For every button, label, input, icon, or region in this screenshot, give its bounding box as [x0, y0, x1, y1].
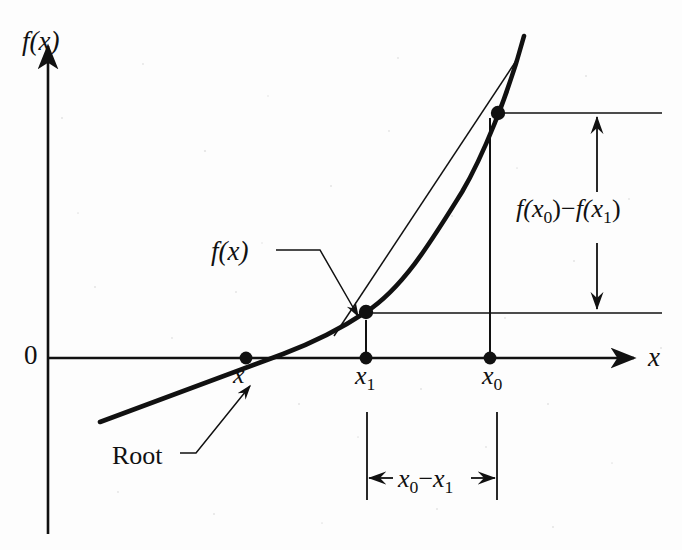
origin-label: 0	[24, 342, 38, 369]
f-open-2: f(	[576, 194, 592, 223]
x-axis-label: x	[648, 344, 660, 371]
x1-variable: x	[355, 361, 367, 390]
paren-close-1: )	[552, 194, 561, 223]
curve-point-x0-marker	[491, 106, 505, 120]
x0-subscript: 0	[494, 374, 503, 394]
function-curve	[100, 36, 524, 422]
y-axis-label: f(x)	[22, 28, 59, 55]
f-open-1: f(	[516, 194, 532, 223]
xdiff-x0: x	[398, 464, 410, 493]
root-point-variable: x	[233, 362, 245, 388]
secant-line	[334, 61, 516, 336]
paren-close-2: )	[612, 194, 621, 223]
x0-variable: x	[482, 361, 494, 390]
root-callout-leader	[180, 386, 250, 453]
minus-sign-1: −	[561, 194, 576, 223]
xdiff-sub-0: 0	[410, 477, 419, 497]
root-point-label: x	[233, 362, 245, 388]
fdiff-x1: x	[592, 194, 604, 223]
projection-lines	[366, 113, 662, 356]
minus-sign-2: −	[418, 464, 433, 493]
curve-point-x1-marker	[359, 305, 373, 319]
marked-points	[240, 106, 506, 365]
fdiff-x0: x	[532, 194, 544, 223]
fx-callout-leader	[276, 250, 358, 316]
vertical-dimension-label: f(x0)−f(x1)	[516, 196, 621, 222]
xdiff-x1: x	[433, 464, 445, 493]
secant-method-diagram	[0, 0, 682, 550]
curve-label: f(x)	[211, 238, 248, 265]
x0-point-label: x0	[482, 363, 502, 389]
fdiff-sub-1: 1	[603, 207, 612, 227]
fdiff-sub-0: 0	[543, 207, 552, 227]
x1-point-label: x1	[355, 363, 375, 389]
figure-canvas: f(x) f(x) 0 x x x1 x0 Root f(x0)−f(x1) x…	[0, 0, 682, 550]
horizontal-dimension-label: x0−x1	[398, 466, 453, 492]
x1-subscript: 1	[367, 374, 376, 394]
xdiff-sub-1: 1	[445, 477, 454, 497]
root-callout-label: Root	[112, 443, 163, 469]
